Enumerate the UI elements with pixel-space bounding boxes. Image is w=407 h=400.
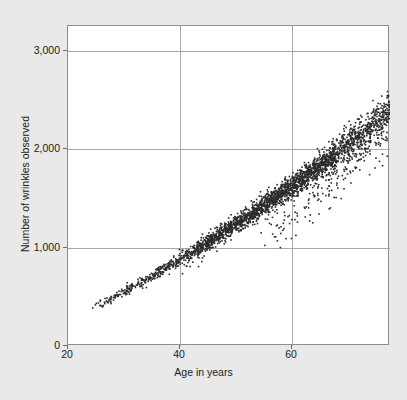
y-tick-label-1000: 1,000 xyxy=(34,242,60,252)
axis-tick-mark xyxy=(291,345,292,349)
axis-tick-mark xyxy=(63,247,67,248)
y-tick-label-2000: 2,000 xyxy=(34,143,60,153)
axis-tick-mark xyxy=(63,50,67,51)
scatter-points-canvas xyxy=(68,26,390,346)
axis-tick-mark xyxy=(67,345,68,349)
x-axis-tick-labels: 20 40 60 xyxy=(0,349,407,365)
x-tick-label-40: 40 xyxy=(173,349,185,360)
axis-tick-mark xyxy=(179,345,180,349)
y-axis-title: Number of wrinkles observed xyxy=(19,74,31,294)
plot-area xyxy=(67,25,389,345)
y-tick-label-3000: 3,000 xyxy=(34,45,60,55)
axis-tick-mark xyxy=(63,148,67,149)
x-tick-label-20: 20 xyxy=(61,349,73,360)
scatter-plot-figure: 3,000 2,000 1,000 0 20 40 60 Age in year… xyxy=(0,0,407,400)
x-tick-label-60: 60 xyxy=(285,349,297,360)
x-axis-title: Age in years xyxy=(0,366,407,378)
